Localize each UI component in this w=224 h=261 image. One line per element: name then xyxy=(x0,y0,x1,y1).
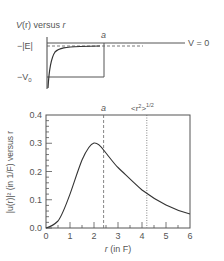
v0-label: −V0 xyxy=(17,72,32,83)
figure: V(r) versus r V = 0 −|E| −V0 a xyxy=(0,0,224,261)
potential-panel: V(r) versus r V = 0 −|E| −V0 a xyxy=(16,20,209,89)
rms-radius-label: <r2>1/2 xyxy=(131,102,154,113)
x-ticks xyxy=(58,222,178,228)
y-axis-label: |u(r)|² (in 1/F) versus r xyxy=(5,131,15,214)
x-tick-labels: 0 1 2 3 4 5 6 xyxy=(43,231,192,241)
probability-curve xyxy=(46,143,190,228)
radius-a-label: a xyxy=(101,103,106,113)
x-tick-2: 2 xyxy=(91,231,96,241)
v-zero-label: V = 0 xyxy=(188,38,209,48)
x-tick-4: 4 xyxy=(139,231,144,241)
potential-title: V(r) versus r xyxy=(16,20,67,30)
y-tick-labels: 0.0 0.1 0.2 0.3 0.4 xyxy=(29,110,42,233)
y-tick-0: 0.0 xyxy=(29,223,42,233)
probability-panel: 0.0 0.1 0.2 0.3 0.4 0 1 2 3 4 5 xyxy=(5,102,193,254)
square-well xyxy=(47,43,104,77)
y-tick-4: 0.4 xyxy=(29,110,42,120)
plot-frame xyxy=(46,115,190,228)
y-ticks xyxy=(46,121,52,228)
x-axis-label: r (in F) xyxy=(105,244,132,254)
y-tick-3: 0.3 xyxy=(29,138,42,148)
x-tick-6: 6 xyxy=(187,231,192,241)
x-tick-1: 1 xyxy=(67,231,72,241)
x-tick-3: 3 xyxy=(115,231,120,241)
potential-curve xyxy=(48,46,100,88)
well-radius-label: a xyxy=(101,30,106,40)
x-tick-5: 5 xyxy=(163,231,168,241)
energy-label: −|E| xyxy=(17,41,33,51)
y-tick-2: 0.2 xyxy=(29,167,42,177)
x-tick-0: 0 xyxy=(43,231,48,241)
y-tick-1: 0.1 xyxy=(29,195,42,205)
